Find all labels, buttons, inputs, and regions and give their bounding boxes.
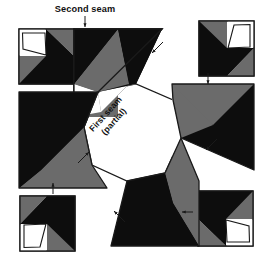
corner-block-top-right	[199, 21, 254, 76]
quilt-assembly-diagram: Second seam First seam (partial)	[0, 0, 273, 266]
quilt-diagram-canvas: Second seam First seam (partial)	[0, 0, 273, 266]
corner-block-bottom-right	[198, 191, 253, 246]
label-second-seam: Second seam	[55, 4, 115, 14]
corner-block-top-left	[19, 29, 74, 84]
corner-block-bottom-left	[20, 196, 75, 251]
